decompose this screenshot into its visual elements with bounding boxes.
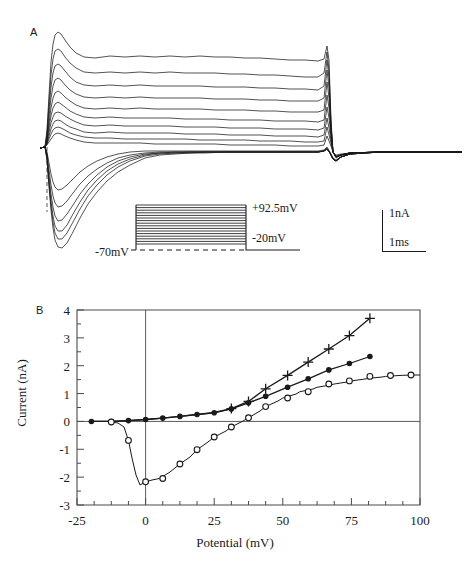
svg-text:0: 0 [142, 513, 149, 528]
y-axis-ticks [77, 310, 84, 505]
svg-text:-2: -2 [59, 470, 70, 485]
series-filled-circle [91, 357, 370, 422]
time-scale-bar [382, 251, 426, 252]
current-scale-label: 1nA [389, 206, 410, 221]
current-scale-bar [382, 210, 383, 252]
svg-text:3: 3 [64, 331, 71, 346]
iv-curve-plot: 4 3 2 1 0 -1 -2 -3 -25 0 25 50 75 100 [0, 290, 470, 571]
y-axis-label: Current (nA) [14, 338, 30, 448]
x-tick-labels: -25 0 25 50 75 100 [68, 513, 429, 528]
plus-markers [226, 313, 375, 413]
time-scale-label: 1ms [389, 235, 409, 250]
svg-text:25: 25 [208, 513, 221, 528]
plot-frame [77, 310, 420, 505]
svg-text:1: 1 [64, 387, 71, 402]
protocol-bottom-voltage-label: -20mV [252, 231, 286, 246]
y-tick-labels: 4 3 2 1 0 -1 -2 -3 [59, 303, 70, 513]
svg-text:-3: -3 [59, 498, 70, 513]
svg-text:-25: -25 [68, 513, 85, 528]
svg-text:100: 100 [410, 513, 430, 528]
panel-a: A [0, 0, 470, 290]
svg-text:75: 75 [345, 513, 358, 528]
svg-text:0: 0 [64, 414, 71, 429]
svg-text:-1: -1 [59, 442, 70, 457]
x-axis-ticks [77, 498, 420, 505]
filled-circle-markers [89, 354, 373, 425]
panel-b: B [0, 290, 470, 571]
protocol-top-voltage-label: +92.5mV [252, 201, 298, 216]
svg-text:4: 4 [64, 303, 71, 318]
x-axis-label: Potential (mV) [0, 535, 470, 551]
svg-text:2: 2 [64, 359, 71, 374]
figure-root: A [0, 0, 470, 571]
protocol-holding-voltage-label: -70mV [95, 245, 129, 260]
svg-text:50: 50 [276, 513, 289, 528]
zero-axis-lines [77, 310, 420, 505]
scale-bars: 1nA 1ms [382, 210, 452, 268]
